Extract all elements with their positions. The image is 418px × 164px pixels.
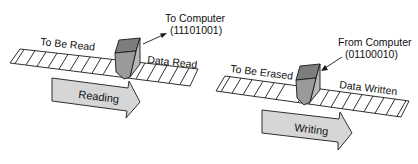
to-computer-bits: (11101001)	[170, 24, 222, 36]
from-computer-bits: (01100010)	[345, 48, 398, 60]
to-computer-label: To Computer	[165, 12, 226, 24]
writing-panel: To Be Erased Data Written From Computer …	[216, 36, 412, 150]
diagram: To Be Read Data Read To Computer (111010…	[0, 0, 418, 164]
to-computer-arrow	[143, 33, 167, 44]
from-computer-label: From Computer	[338, 36, 412, 48]
from-computer-arrow	[321, 57, 342, 71]
to-be-read-label: To Be Read	[40, 35, 96, 53]
reading-arrow: Reading	[52, 78, 140, 118]
writing-arrow: Writing	[262, 110, 352, 150]
reading-panel: To Be Read Data Read To Computer (111010…	[10, 12, 226, 118]
